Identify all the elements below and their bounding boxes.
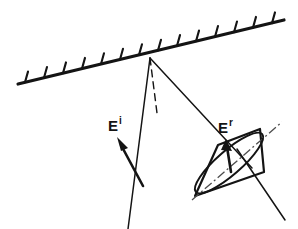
label-incident-field: E i [108, 115, 122, 134]
optics-reflection-figure: E i E r [0, 0, 298, 229]
reflected-field-label-superscript: r [229, 117, 233, 128]
surface-normal [150, 58, 157, 113]
reflected-field-label-base: E [218, 119, 228, 136]
reflected-ray [150, 58, 252, 168]
incident-vector-arrowhead [117, 137, 128, 151]
ellipse-major-axis [192, 122, 282, 200]
incident-field-label-base: E [108, 117, 118, 134]
incident-vector-shaft [121, 145, 143, 186]
ellipse-through-ray [237, 149, 285, 220]
label-reflected-field: E r [218, 117, 233, 136]
hatched-boundary-surface [18, 12, 284, 84]
surface-baseline [18, 20, 284, 84]
incident-field-label-superscript: i [119, 115, 122, 126]
incident-ray [128, 58, 150, 229]
figure-canvas: E i E r [0, 0, 298, 229]
surface-hatch-ticks [25, 12, 275, 82]
